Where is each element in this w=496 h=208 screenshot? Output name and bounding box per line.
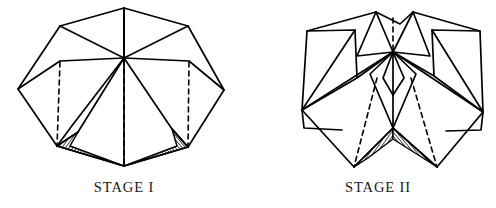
captions-row: STAGE I STAGE II (0, 178, 496, 204)
stage-1-caption: STAGE I (0, 178, 242, 204)
stages-diagram (0, 0, 496, 208)
stage-2-caption: STAGE II (242, 178, 496, 204)
canvas-background (0, 0, 496, 208)
